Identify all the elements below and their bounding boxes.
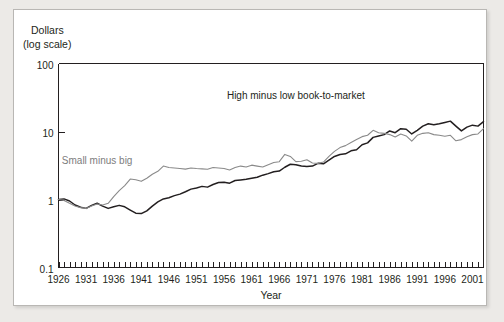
y-tick-labels: 1001010.1 [37,60,54,275]
series-line-0 [59,121,484,213]
x-axis-title: Year [260,289,282,301]
line-chart: Dollars (log scale) 1001010.1 1926193119… [14,10,486,305]
x-tick-label: 1951 [185,274,208,285]
x-tick-label: 1926 [47,274,70,285]
y-tick-marks [59,133,65,201]
x-tick-label: 1936 [103,274,126,285]
x-tick-label: 1966 [268,274,291,285]
x-tick-label: 1996 [434,274,457,285]
y-axis-subtitle: (log scale) [23,38,71,50]
x-tick-marks [60,262,479,268]
figure-background: Dollars (log scale) 1001010.1 1926193119… [0,0,504,322]
x-tick-label: 1941 [130,274,153,285]
x-tick-label: 1971 [296,274,319,285]
y-axis-title: Dollars [31,24,64,36]
series-label-high-minus-low: High minus low book-to-market [227,90,365,101]
x-tick-label: 2001 [461,274,484,285]
series-line-1 [59,129,484,209]
x-tick-label: 1956 [213,274,236,285]
x-tick-label: 1946 [158,274,181,285]
x-tick-label: 1981 [351,274,374,285]
y-tick-label: 100 [37,60,54,71]
x-tick-label: 1986 [379,274,402,285]
x-tick-label: 1976 [323,274,346,285]
series-label-small-minus-big: Small minus big [62,155,133,166]
y-tick-label: 1 [48,196,54,207]
x-tick-labels: 1926193119361941194619511956196119661971… [47,274,484,285]
x-tick-label: 1991 [406,274,429,285]
chart-card: Dollars (log scale) 1001010.1 1926193119… [13,9,487,306]
series-lines [59,121,484,213]
y-tick-label: 10 [42,128,54,139]
x-tick-label: 1961 [241,274,264,285]
x-tick-label: 1931 [75,274,98,285]
